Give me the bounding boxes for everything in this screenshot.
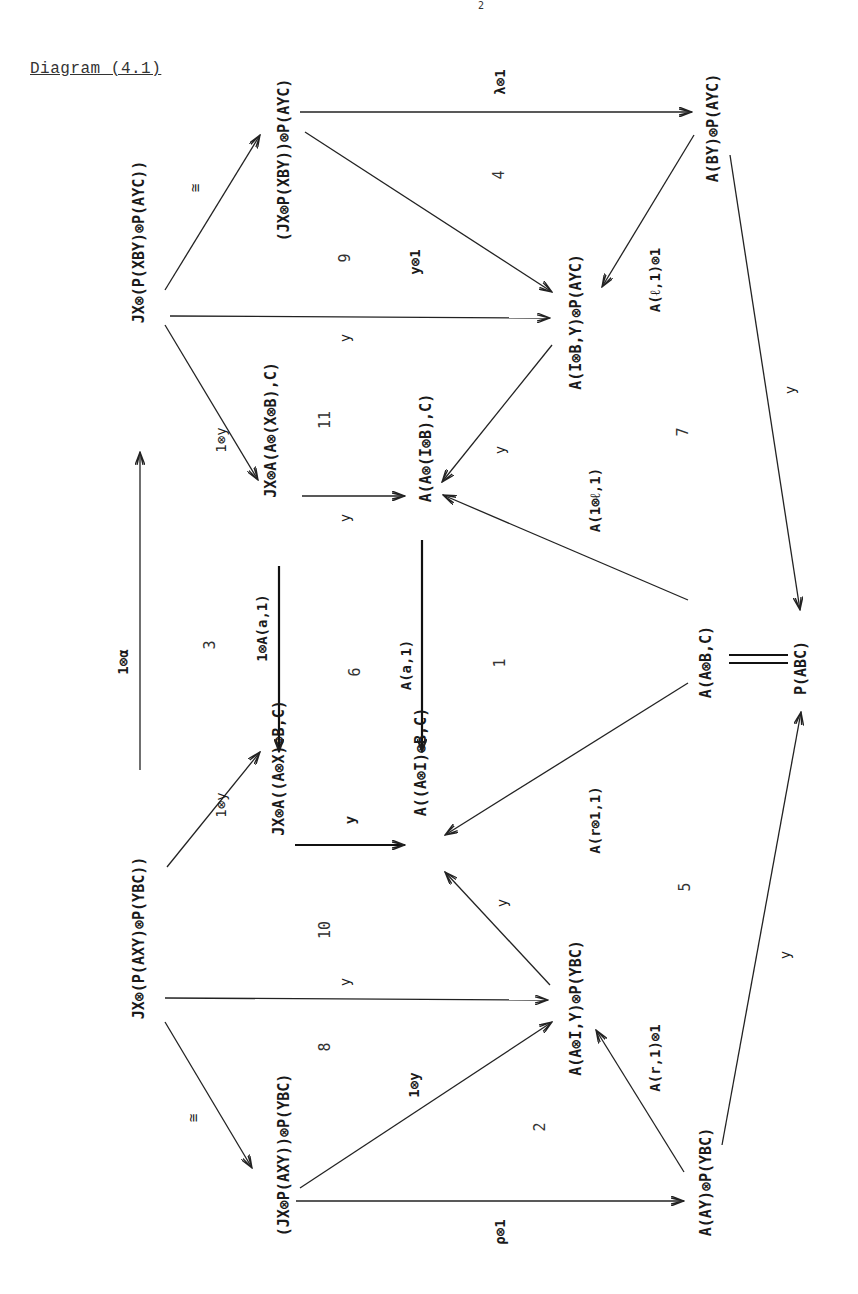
node-n3: A(BY)⊗P(AYC) [704, 74, 722, 182]
label-one-tensor-alpha: 1⊗α [115, 649, 131, 674]
region-7: 7 [674, 427, 692, 436]
arrow-n11-n12 [165, 998, 548, 1000]
region-11: 11 [316, 411, 334, 429]
commutative-diagram: JX⊗(P(XBY)⊗P(AYC)) (JX⊗P(XBY))⊗P(AYC) A(… [0, 0, 858, 1294]
label-A-r-tensor-1-1: A(r⊗1,1) [587, 786, 603, 853]
label-A-a-1: A(a,1) [398, 640, 414, 691]
label-y-n1-n4: y [337, 334, 353, 342]
region-2: 2 [531, 1122, 549, 1131]
region-8: 8 [316, 1042, 334, 1051]
label-y-tensor-1: y⊗1 [407, 249, 423, 274]
label-one-tensor-y-top: 1⊗y [213, 427, 229, 452]
label-y-n3-n8: y [782, 386, 798, 394]
label-y-n12-n10: y [494, 899, 510, 907]
label-iso-top: ≅ [187, 184, 203, 192]
label-iso-bottom: ≅ [185, 1114, 201, 1122]
node-n4: A(I⊗B,Y)⊗P(AYC) [567, 254, 585, 389]
arrow-iso-top [165, 135, 260, 290]
region-3: 3 [201, 640, 219, 649]
node-n12: A(A⊗I,Y)⊗P(YBC) [567, 940, 585, 1075]
label-y-n9-n10: y [342, 815, 358, 824]
node-n2: (JX⊗P(XBY))⊗P(AYC) [275, 79, 293, 242]
region-4: 4 [490, 170, 508, 179]
label-y-n5-n6: y [337, 514, 353, 522]
label-A-l-1-tensor-1: A(ℓ,1)⊗1 [647, 248, 663, 312]
node-n13: (JX⊗P(AXY))⊗P(YBC) [275, 1074, 293, 1237]
node-n1: JX⊗(P(XBY)⊗P(AYC)) [130, 161, 148, 324]
region-10: 10 [316, 921, 334, 939]
region-1: 1 [491, 658, 509, 667]
label-A-r-1-tensor-1: A(r,1)⊗1 [647, 1024, 663, 1091]
label-one-tensor-y-bottom: 1⊗y [406, 1072, 422, 1098]
node-n10: A((A⊗I)⊗B,C) [412, 708, 430, 816]
region-6: 6 [346, 667, 364, 676]
arrow-A-r-tensor-1-1 [445, 683, 688, 835]
arrow-n1-n5 [165, 325, 258, 480]
region-9: 9 [336, 253, 354, 262]
node-n14: A(AY)⊗P(YBC) [697, 1128, 715, 1236]
arrow-n14-n8 [722, 712, 801, 1145]
label-lambda-tensor-1: λ⊗1 [492, 69, 508, 94]
node-n6: A(A⊗(I⊗B),C) [417, 394, 435, 502]
arrow-A-1-tensor-l-1 [443, 495, 688, 600]
label-y-n11-n12: y [337, 978, 353, 986]
node-n11: JX⊗(P(AXY)⊗P(YBC)) [130, 857, 148, 1020]
arrow-iso-bottom [165, 1022, 252, 1168]
label-y-n4-n6: y [492, 446, 508, 454]
arrow-n4-n6 [442, 345, 552, 482]
label-y-n14-n8: y [777, 951, 793, 959]
arrow-y-tensor-1 [305, 132, 552, 292]
label-rho-tensor-1: ρ⊗1 [492, 1219, 508, 1244]
region-5: 5 [676, 882, 694, 891]
arrow-n3-n8 [730, 155, 800, 610]
arrow-A-r-1-tensor-1 [596, 1030, 684, 1172]
arrow-n1-n4 [170, 316, 550, 318]
label-one-tensor-A-a-1: 1⊗A(a,1) [254, 594, 270, 661]
label-A-1-tensor-l-1: A(1⊗ℓ,1) [587, 468, 603, 532]
node-n7: A(A⊗B,C) [697, 626, 715, 698]
node-n5: JX⊗A(A⊗(X⊗B),C) [262, 362, 280, 497]
label-one-tensor-y-mid: 1⊗y [213, 792, 229, 817]
node-n8: P(ABC) [792, 641, 810, 695]
arrow-n12-n10 [445, 872, 550, 985]
node-n9: JX⊗A((A⊗X)⊗B,C) [270, 700, 288, 835]
arrow-n13-n12 [300, 1022, 552, 1188]
